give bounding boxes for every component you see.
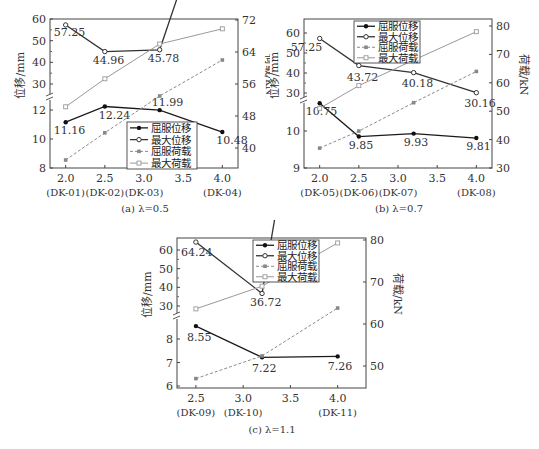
caption-b: (b) λ=0.7 (304, 203, 494, 214)
legend: 屈服位移最大位移屈服荷载最大荷载 (253, 239, 319, 283)
right-tick-label: 64 (242, 46, 256, 59)
right-tick-label: 48 (242, 110, 256, 123)
x-tick-label: 4.0 (214, 172, 232, 185)
chart-b-plot: 304050609103040506070802.0(DK-05)2.5(DK-… (270, 0, 539, 200)
left-tick-label: 8 (39, 162, 46, 175)
data-label: 57.25 (291, 41, 323, 54)
x-tick-specimen: (DK-05) (300, 187, 339, 198)
series-屈服位移: 8.557.227.26 (187, 324, 352, 375)
x-tick-specimen: (DK-02) (85, 187, 124, 198)
x-tick-label: 3.0 (135, 172, 153, 185)
left-tick-label: 9 (293, 162, 300, 175)
right-tick-label: 80 (370, 234, 384, 247)
data-label: 30.16 (464, 97, 496, 110)
data-label: 9.93 (404, 136, 429, 149)
y-left-title: 位移/mm (140, 271, 154, 318)
x-tick-specimen: (DK-07) (379, 187, 418, 198)
series-屈服荷载 (318, 70, 478, 150)
left-tick-label: 6 (166, 380, 173, 393)
data-label: 7.26 (328, 360, 353, 373)
chart-c-plot: 30405060678506070802.5(DK-09)3.0(DK-10)3… (130, 220, 410, 420)
left-tick-label: 8 (166, 333, 173, 346)
data-label: 11.99 (152, 96, 184, 109)
x-tick-label: 2.5 (187, 392, 205, 405)
x-tick-label: 2.0 (311, 172, 329, 185)
chart-a: 304050608101240485664722.0(DK-01)2.5(DK-… (0, 0, 270, 200)
x-tick-specimen: (DK-09) (177, 407, 216, 418)
right-tick-label: 60 (370, 318, 384, 331)
data-label: 57.25 (54, 26, 86, 39)
right-tick-label: 56 (242, 78, 256, 91)
series-屈服位移: 10.759.859.939.81 (306, 101, 491, 153)
legend-label: 最大位移 (151, 134, 192, 146)
left-tick-label: 50 (159, 263, 173, 276)
right-tick-label: 40 (496, 134, 510, 147)
left-tick-label: 7 (166, 357, 173, 370)
right-tick-label: 80 (496, 20, 510, 33)
x-tick-label: 3.0 (389, 172, 407, 185)
left-tick-label: 30 (286, 87, 300, 100)
right-tick-label: 70 (370, 276, 384, 289)
left-tick-label: 50 (32, 35, 46, 48)
left-tick-label: 10 (32, 133, 46, 146)
data-label: 43.72 (347, 71, 379, 84)
x-tick-label: 3.5 (282, 392, 300, 405)
legend-label: 最大荷载 (277, 271, 318, 283)
data-label: 9.85 (349, 139, 374, 152)
left-tick-label: 30 (32, 78, 46, 91)
left-tick-label: 40 (32, 56, 46, 69)
left-tick-label: 40 (159, 281, 173, 294)
chart-b: 304050609103040506070802.0(DK-05)2.5(DK-… (270, 0, 539, 200)
legend-label: 最大荷载 (378, 52, 419, 64)
y-right-title: 荷载/kN (391, 273, 404, 315)
x-tick-label: 2.0 (57, 172, 75, 185)
caption-c: (c) λ=1.1 (177, 424, 367, 435)
data-label: 12.24 (99, 109, 131, 122)
axis-break-icon (173, 312, 180, 319)
series-最大位移: 57.2544.9645.7828.93 (54, 0, 242, 67)
left-tick-label: 60 (159, 244, 173, 257)
right-tick-label: 50 (496, 105, 510, 118)
x-tick-specimen: (DK-08) (457, 187, 496, 198)
left-tick-label: 10 (286, 125, 300, 138)
x-tick-specimen: (DK-03) (125, 187, 164, 198)
x-tick-label: 4.0 (468, 172, 486, 185)
chart-c: 30405060678506070802.5(DK-09)3.0(DK-10)3… (130, 220, 410, 420)
x-tick-label: 2.5 (350, 172, 368, 185)
x-tick-specimen: (DK-11) (318, 407, 357, 418)
data-label: 8.55 (187, 331, 212, 344)
axis-break-icon (300, 96, 307, 103)
left-tick-label: 40 (286, 67, 300, 80)
x-tick-label: 4.0 (329, 392, 347, 405)
data-label: 40.18 (402, 77, 434, 90)
right-tick-label: 50 (370, 360, 384, 373)
right-tick-label: 72 (242, 14, 256, 27)
data-label: 45.78 (148, 52, 180, 65)
data-label: 11.16 (54, 124, 86, 137)
left-tick-label: 12 (32, 104, 46, 117)
left-tick-label: 30 (159, 300, 173, 313)
x-tick-label: 3.0 (234, 392, 252, 405)
data-label: 64.24 (181, 246, 213, 259)
legend-label: 屈服荷载 (151, 145, 192, 157)
left-tick-label: 60 (32, 13, 46, 26)
series-最大荷载 (64, 27, 225, 109)
right-tick-label: 60 (496, 77, 510, 90)
x-tick-label: 3.5 (428, 172, 446, 185)
x-tick-specimen: (DK-06) (339, 187, 378, 198)
x-tick-specimen: (DK-10) (224, 407, 263, 418)
right-tick-label: 70 (496, 48, 510, 61)
caption-a: (a) λ=0.5 (50, 203, 240, 214)
data-label: 9.81 (466, 140, 491, 153)
data-label: 36.72 (250, 296, 281, 309)
x-tick-specimen: (DK-04) (203, 187, 242, 198)
x-tick-label: 3.5 (174, 172, 192, 185)
legend: 屈服位移最大位移屈服荷载最大荷载 (354, 20, 420, 64)
y-right-title: 荷载/kN (517, 54, 530, 96)
y-left-title: 位移/mm (270, 51, 281, 98)
legend-label: 屈服位移 (151, 122, 192, 134)
legend: 屈服位移最大位移屈服荷载最大荷载 (127, 122, 197, 169)
legend-label: 最大荷载 (151, 157, 192, 169)
x-tick-specimen: (DK-01) (46, 187, 85, 198)
data-label: 44.96 (93, 54, 125, 67)
